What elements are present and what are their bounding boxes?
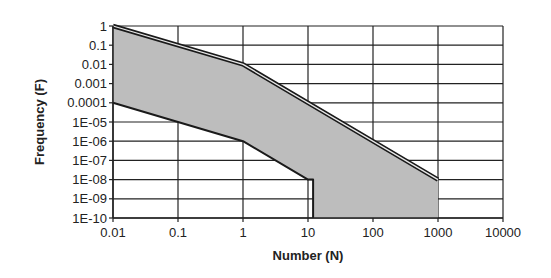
x-tick-label: 0.01 [100,225,125,240]
chart: 0.010.1110100100010000 10.10.010.0010.00… [0,0,551,278]
x-axis-title: Number (N) [273,248,344,263]
y-tick-label: 0.0001 [67,95,107,110]
y-tick-label: 1E-05 [72,115,107,130]
y-axis-title: Frequency (F) [32,79,47,165]
y-tick-label: 0.001 [74,76,107,91]
y-tick-label: 1E-08 [72,172,107,187]
x-tick-labels: 0.010.1110100100010000 [100,225,521,240]
y-tick-label: 1E-06 [72,134,107,149]
y-tick-label: 1E-07 [72,153,107,168]
x-tick-label: 1 [239,225,246,240]
x-tick-label: 0.1 [169,225,187,240]
y-tick-label: 1 [100,19,107,34]
y-tick-label: 0.1 [89,38,107,53]
y-tick-label: 1E-10 [72,211,107,226]
x-tick-label: 1000 [424,225,453,240]
x-tick-label: 10 [301,225,315,240]
y-tick-labels: 10.10.010.0010.00011E-051E-061E-071E-081… [67,19,107,226]
y-tick-label: 1E-09 [72,191,107,206]
x-tick-label: 100 [362,225,384,240]
x-tick-label: 10000 [485,225,521,240]
y-tick-label: 0.01 [82,57,107,72]
